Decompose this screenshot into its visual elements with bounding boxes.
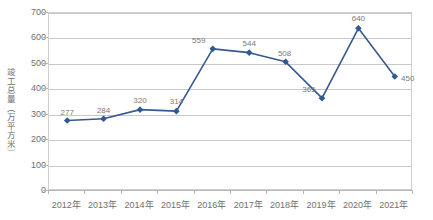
y-axis-tick-label: 0 bbox=[16, 185, 46, 195]
x-axis-tick-mark bbox=[412, 190, 413, 194]
x-axis-tick-label: 2019年 bbox=[306, 198, 335, 211]
y-axis-tick-label: 700 bbox=[16, 7, 46, 17]
x-axis-tick-mark bbox=[121, 190, 122, 194]
x-axis-tick-mark bbox=[157, 190, 158, 194]
x-axis-tick-label: 2015年 bbox=[161, 198, 190, 211]
x-axis-tick-mark bbox=[339, 190, 340, 194]
x-axis-tick-label: 2018年 bbox=[270, 198, 299, 211]
x-axis-tick-mark bbox=[48, 190, 49, 194]
data-point-marker bbox=[100, 115, 107, 122]
y-axis-tick-label: 300 bbox=[16, 109, 46, 119]
data-point-label: 277 bbox=[61, 108, 74, 117]
y-axis-tick-label: 200 bbox=[16, 134, 46, 144]
data-point-label: 508 bbox=[278, 49, 291, 58]
x-axis-tick-mark bbox=[194, 190, 195, 194]
x-axis-tick-label: 2020年 bbox=[343, 198, 372, 211]
data-point-label: 640 bbox=[352, 14, 365, 23]
x-axis-tick-label: 2017年 bbox=[234, 198, 263, 211]
x-axis-tick-mark bbox=[266, 190, 267, 194]
x-axis-tick-mark bbox=[376, 190, 377, 194]
x-axis-tick-label: 2021年 bbox=[379, 198, 408, 211]
y-axis-tick-label: 400 bbox=[16, 83, 46, 93]
data-point-label: 284 bbox=[97, 106, 110, 115]
x-axis-tick-mark bbox=[230, 190, 231, 194]
data-point-marker bbox=[246, 49, 253, 56]
x-axis-tick-mark bbox=[84, 190, 85, 194]
data-point-marker bbox=[210, 46, 217, 53]
y-axis-tick-label: 600 bbox=[16, 32, 46, 42]
data-point-label: 314 bbox=[170, 97, 183, 106]
x-axis-tick-mark bbox=[303, 190, 304, 194]
x-axis-tick-label: 2016年 bbox=[197, 198, 226, 211]
x-axis-tick-label: 2014年 bbox=[124, 198, 153, 211]
y-axis-tick-label: 500 bbox=[16, 58, 46, 68]
data-point-marker bbox=[173, 108, 180, 115]
data-point-marker bbox=[64, 117, 71, 124]
y-axis-tick-labels: 0100200300400500600700 bbox=[14, 0, 46, 220]
data-point-label: 544 bbox=[243, 39, 256, 48]
data-point-marker bbox=[137, 106, 144, 113]
x-axis-tick-label: 2013年 bbox=[88, 198, 117, 211]
data-point-label: 559 bbox=[192, 36, 205, 45]
data-point-label: 450 bbox=[401, 74, 414, 83]
series-line-path bbox=[49, 13, 413, 191]
data-point-label: 320 bbox=[133, 96, 146, 105]
plot-area: 277284320314559544508365640450 bbox=[48, 12, 412, 190]
x-axis-tick-label: 2012年 bbox=[52, 198, 81, 211]
data-point-label: 365 bbox=[302, 85, 315, 94]
line-chart: 竣工总量（万平方米） 0100200300400500600700 277284… bbox=[0, 0, 433, 220]
y-axis-tick-label: 100 bbox=[16, 160, 46, 170]
series-line bbox=[67, 28, 395, 120]
